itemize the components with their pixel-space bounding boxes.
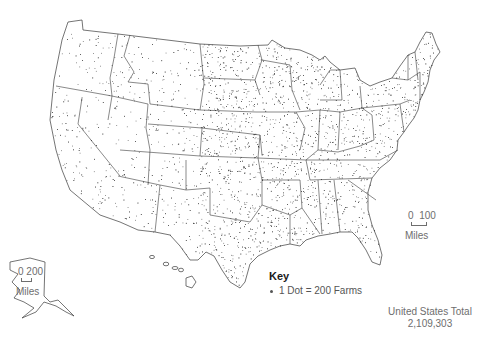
alaska-scale-unit: Miles: [16, 286, 39, 297]
contiguous-scale-label: 0 100: [408, 210, 436, 221]
key-legend-label: 1 Dot = 200 Farms: [279, 285, 362, 296]
contiguous-scale-bar: [411, 222, 427, 226]
us-total-value: 2,109,303: [380, 318, 480, 330]
key-title: Key: [269, 270, 289, 282]
hawaii-islands: [150, 255, 197, 288]
us-total: United States Total 2,109,303: [380, 306, 480, 330]
contiguous-scale-unit: Miles: [405, 230, 428, 241]
key-legend-item: 1 Dot = 200 Farms: [270, 285, 362, 296]
alaska-scale-label: 0 200: [18, 266, 43, 277]
us-total-label: United States Total: [380, 306, 480, 318]
us-farm-dot-map: [0, 0, 484, 340]
alaska-scale-bar: [21, 278, 32, 282]
dot-symbol-icon: [270, 290, 273, 293]
state-outlines: [10, 20, 440, 318]
